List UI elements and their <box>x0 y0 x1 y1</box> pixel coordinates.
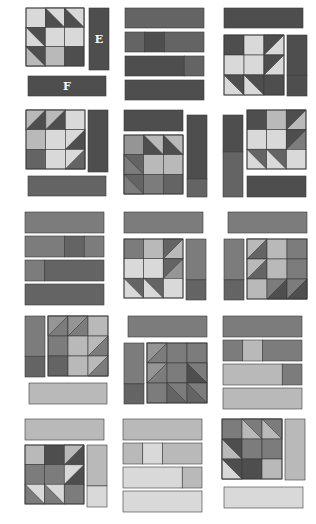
strip-segment <box>125 32 145 52</box>
sashing-strip <box>123 443 202 464</box>
strip-segment <box>223 340 243 361</box>
sashing-strip <box>223 364 302 385</box>
sashing-strip <box>25 316 45 377</box>
sashing-strip <box>25 419 104 440</box>
square-patch <box>286 149 306 169</box>
sashing-strip <box>187 115 207 197</box>
square-patch <box>267 239 287 259</box>
sashing-strip <box>125 80 204 100</box>
strip-piece <box>247 176 306 197</box>
strip-segment <box>243 340 263 361</box>
strip-segment <box>45 260 104 281</box>
strip-segment <box>263 340 303 361</box>
sashing-strip <box>223 316 302 337</box>
sashing-strip <box>223 340 302 361</box>
square-patch <box>187 343 207 363</box>
square-patch <box>46 130 66 150</box>
pieced-block <box>247 110 306 169</box>
sashing-strip <box>224 239 244 300</box>
square-patch <box>287 259 307 279</box>
square-patch <box>244 55 264 75</box>
square-patch <box>247 110 267 130</box>
sashing-strip: E <box>89 8 109 70</box>
panel-2-1 <box>26 110 108 196</box>
sashing-strip <box>124 110 183 131</box>
strip-piece <box>224 487 303 508</box>
sashing-strip <box>128 316 207 337</box>
sashing-strip <box>228 212 307 233</box>
square-patch <box>65 47 84 66</box>
strip-segment <box>25 356 45 377</box>
square-patch <box>68 356 88 376</box>
sashing-strip <box>29 383 107 404</box>
sashing-strip <box>125 8 204 28</box>
strip-piece <box>25 419 104 440</box>
strip-segment <box>223 115 243 152</box>
square-patch <box>25 465 45 485</box>
strip-piece <box>25 212 104 233</box>
strip-segment <box>187 115 207 179</box>
piece-label-e: E <box>95 33 103 46</box>
sashing-strip <box>124 343 144 404</box>
square-patch <box>144 174 164 194</box>
square-patch <box>64 484 84 504</box>
square-patch <box>163 174 183 194</box>
strip-segment <box>87 486 107 507</box>
square-patch <box>88 316 108 336</box>
sashing-strip <box>247 176 306 197</box>
pieced-block <box>48 316 108 376</box>
panel-5-3 <box>222 419 305 508</box>
strip-segment <box>287 35 307 75</box>
strip-piece <box>224 8 303 28</box>
square-patch <box>287 239 307 259</box>
sashing-strip <box>87 445 107 507</box>
pieced-block <box>147 343 207 403</box>
strip-segment <box>186 280 206 300</box>
panel-1-3 <box>224 8 307 96</box>
panel-5-1 <box>25 419 107 507</box>
sashing-strip <box>28 176 106 196</box>
sashing-strip <box>25 212 104 233</box>
sashing-strip <box>124 212 203 233</box>
strip-segment <box>125 56 184 76</box>
square-patch <box>124 259 144 279</box>
strip-segment <box>163 443 203 464</box>
square-patch <box>163 278 183 298</box>
strip-segment <box>25 236 65 257</box>
strip-segment <box>186 239 206 280</box>
square-patch <box>26 130 46 150</box>
panel-4-1 <box>25 316 108 404</box>
pieced-block <box>26 8 84 66</box>
strip-segment <box>223 152 243 197</box>
panels-layer: EF <box>25 8 307 512</box>
strip-segment <box>124 343 144 384</box>
square-patch <box>45 465 65 485</box>
strip-segment <box>84 236 104 257</box>
sashing-strip: F <box>28 76 106 96</box>
square-patch <box>45 27 64 46</box>
sashing-strip <box>88 110 108 172</box>
strip-segment <box>123 443 143 464</box>
sashing-strip <box>287 35 307 96</box>
strip-piece <box>125 8 204 28</box>
strip-segment <box>282 364 302 385</box>
strip-segment <box>165 32 205 52</box>
strip-segment <box>65 236 85 257</box>
strip-piece <box>29 383 107 404</box>
pieced-block <box>247 239 307 299</box>
strip-segment <box>187 179 207 197</box>
sashing-strip <box>25 260 104 281</box>
sashing-strip <box>125 56 204 76</box>
strip-segment <box>25 316 45 356</box>
panel-1-1: EF <box>26 8 109 96</box>
strip-segment <box>143 443 163 464</box>
piece-label-f: F <box>63 80 71 93</box>
panel-4-3 <box>223 316 302 409</box>
square-patch <box>45 47 64 66</box>
square-patch <box>65 110 85 130</box>
strip-piece <box>124 110 183 131</box>
pieced-block <box>224 35 284 95</box>
square-patch <box>46 149 66 169</box>
pieced-block <box>222 419 282 479</box>
panel-2-3 <box>223 110 306 197</box>
